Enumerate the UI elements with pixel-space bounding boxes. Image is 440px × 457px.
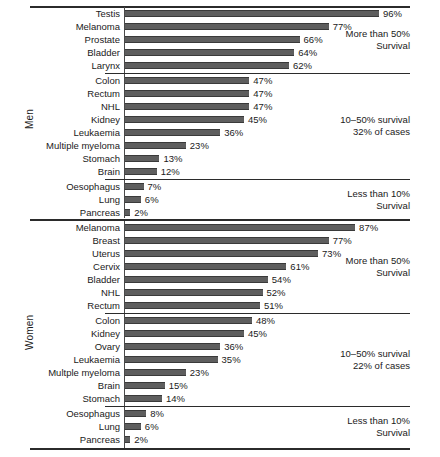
category-label: Colon [0, 314, 120, 327]
bar [125, 289, 263, 296]
bar-value-label: 23% [190, 139, 209, 152]
bar [125, 77, 249, 84]
bar-value-label: 12% [161, 165, 180, 178]
bar [125, 276, 268, 283]
bar [125, 423, 141, 430]
band-annotation: Less than 10%Survival [347, 188, 410, 212]
category-label: Oesophagus [0, 180, 120, 193]
bar [125, 382, 165, 389]
group-axis-label-women: Women [24, 314, 35, 349]
bar [125, 356, 218, 363]
category-label: Pancreas [0, 206, 120, 219]
category-label: NHL [0, 100, 120, 113]
category-label: Melanoma [0, 20, 120, 33]
bar-value-label: 47% [253, 87, 272, 100]
bar-value-label: 15% [169, 379, 188, 392]
table-row: Larynx62% [0, 59, 440, 72]
category-label: Bladder [0, 273, 120, 286]
group-axis-label-men: Men [24, 109, 35, 129]
bar [125, 302, 260, 309]
category-label: Colon [0, 74, 120, 87]
bar-value-label: 36% [224, 340, 243, 353]
bar [125, 49, 294, 56]
band-annotation-line: Survival [346, 40, 410, 52]
bar-value-label: 62% [293, 59, 312, 72]
bar-value-label: 23% [190, 366, 209, 379]
band-annotation: More than 50%Survival [346, 255, 410, 279]
table-row: Brain15% [0, 379, 440, 392]
category-label: Lung [0, 420, 120, 433]
bar-value-label: 61% [290, 260, 309, 273]
category-label: Ovary [0, 340, 120, 353]
category-label: Pancreas [0, 433, 120, 446]
category-label: Oesophagus [0, 407, 120, 420]
category-label: Multiple myeloma [0, 139, 120, 152]
bar [125, 196, 141, 203]
bar [125, 36, 300, 43]
table-row: Melanoma87% [0, 221, 440, 234]
bar [125, 183, 144, 190]
bar [125, 317, 252, 324]
table-row: Rectum47% [0, 87, 440, 100]
bar-value-label: 2% [134, 206, 148, 219]
bar-value-label: 35% [222, 353, 241, 366]
category-label: Multple myeloma [0, 366, 120, 379]
category-label: Leukaemia [0, 126, 120, 139]
bar [125, 116, 244, 123]
bar [125, 250, 318, 257]
bar [125, 395, 162, 402]
table-row: NHL47% [0, 100, 440, 113]
bar [125, 237, 329, 244]
category-label: NHL [0, 286, 120, 299]
category-label: Cervix [0, 260, 120, 273]
bar [125, 90, 249, 97]
category-label: Rectum [0, 87, 120, 100]
bar-value-label: 96% [383, 7, 402, 20]
band-annotation: 10–50% survival32% of cases [340, 114, 410, 138]
table-row: Multiple myeloma23% [0, 139, 440, 152]
bar [125, 263, 286, 270]
bar-value-label: 66% [304, 33, 323, 46]
bar [125, 224, 355, 231]
bar-value-label: 52% [267, 286, 286, 299]
bar-value-label: 6% [145, 193, 159, 206]
category-label: Testis [0, 7, 120, 20]
bar [125, 369, 186, 376]
category-label: Prostate [0, 33, 120, 46]
band-annotation-line: More than 50% [346, 255, 410, 267]
bar-value-label: 7% [148, 180, 162, 193]
category-label: Uterus [0, 247, 120, 260]
bar [125, 330, 244, 337]
bar [125, 23, 329, 30]
bar-value-label: 87% [359, 221, 378, 234]
category-label: Kidney [0, 113, 120, 126]
bar [125, 343, 220, 350]
category-label: Kidney [0, 327, 120, 340]
bar-value-label: 36% [224, 126, 243, 139]
bar-value-label: 47% [253, 100, 272, 113]
band-annotation-line: Survival [347, 200, 410, 212]
band-annotation-line: 10–50% survival [340, 348, 410, 360]
bar [125, 410, 146, 417]
category-label: Rectum [0, 299, 120, 312]
bar [125, 10, 379, 17]
bar [125, 155, 159, 162]
table-row: Brain12% [0, 165, 440, 178]
table-row: Stomach13% [0, 152, 440, 165]
table-row: Colon48% [0, 314, 440, 327]
bar-value-label: 64% [298, 46, 317, 59]
bar-value-label: 48% [256, 314, 275, 327]
bar-value-label: 8% [150, 407, 164, 420]
table-row: Breast77% [0, 234, 440, 247]
table-row: Kidney45% [0, 327, 440, 340]
table-row: NHL52% [0, 286, 440, 299]
category-label: Leukaemia [0, 353, 120, 366]
bar-value-label: 77% [333, 234, 352, 247]
bar-value-label: 45% [248, 113, 267, 126]
band-annotation: Less than 10%Survival [347, 415, 410, 439]
bar-value-label: 47% [253, 74, 272, 87]
bar-value-label: 45% [248, 327, 267, 340]
category-label: Brain [0, 165, 120, 178]
band-annotation-line: Less than 10% [347, 415, 410, 427]
bar-value-label: 14% [166, 392, 185, 405]
